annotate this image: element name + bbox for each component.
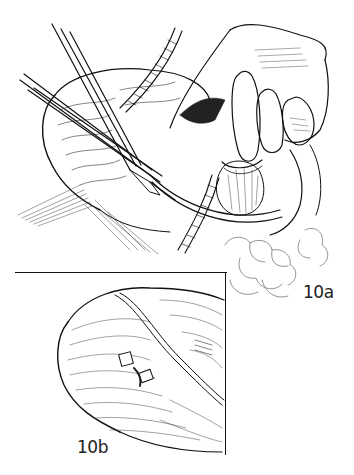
panel-10a-drawing (18, 24, 328, 297)
figure-label-10a: 10a (303, 284, 334, 301)
panel-10b-drawing (58, 288, 224, 452)
inset-frame-top-rule (15, 272, 227, 273)
surgical-illustration: 10a 10b (0, 0, 354, 475)
inset-frame-right-rule (225, 272, 226, 455)
illustration-linework (0, 0, 354, 475)
figure-label-10b: 10b (77, 439, 108, 456)
